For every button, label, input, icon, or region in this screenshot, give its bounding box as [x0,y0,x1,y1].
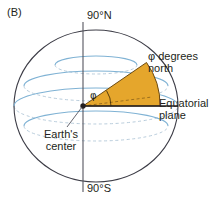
latitude-front-60n [55,56,137,65]
phi-degrees-north-label: φ degrees north [148,50,198,75]
south-pole-label: 90°S [87,182,111,194]
earths-center-label: Earth's center [44,128,78,153]
phi-angle-symbol: φ [90,90,97,101]
latitude-back-equator [14,106,178,124]
equatorial-plane-label: Equatorial plane [159,97,209,122]
panel-label: (B) [7,6,22,18]
earths-center-leader-line [67,107,82,127]
north-pole-label: 90°N [87,9,112,21]
earth-latitude-diagram: (B) 90°N 90°S φ degrees north Equatorial… [0,0,211,202]
